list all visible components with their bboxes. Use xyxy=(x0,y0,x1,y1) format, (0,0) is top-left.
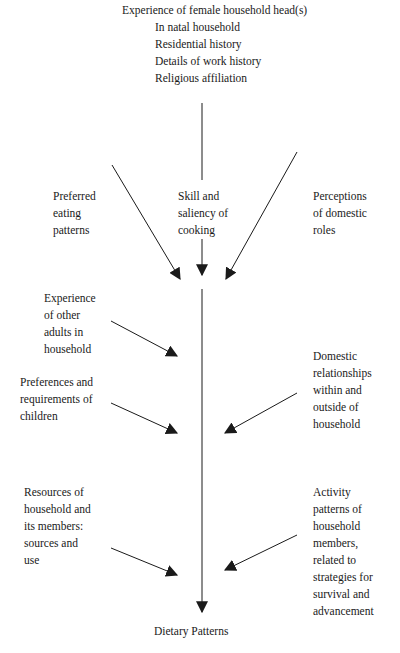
label-line: members, xyxy=(313,535,374,552)
label-line: Preferred xyxy=(53,188,96,205)
label-line: patterns of xyxy=(313,501,374,518)
label-line: of other xyxy=(44,307,96,324)
label-perceptions-roles: Perceptions of domestic roles xyxy=(313,188,367,239)
label-line: sources and xyxy=(24,535,91,552)
label-line: outside of xyxy=(313,399,372,416)
top-block: Experience of female household head(s) I… xyxy=(122,2,322,87)
top-title: Experience of female household head(s) xyxy=(122,2,322,19)
arrow-perceptions-roles xyxy=(226,152,297,279)
arrow-other-adults xyxy=(111,321,177,356)
arrow-domestic-relationships xyxy=(225,393,297,433)
label-line: Activity xyxy=(313,484,374,501)
arrow-children xyxy=(111,403,177,433)
label-line: within and xyxy=(313,382,372,399)
label-skill-cooking: Skill and saliency of cooking xyxy=(178,188,228,239)
label-line: household xyxy=(313,416,372,433)
label-line: use xyxy=(24,552,91,569)
label-line: its members: xyxy=(24,518,91,535)
label-line: saliency of xyxy=(178,205,228,222)
label-activity-patterns: Activity patterns of household members, … xyxy=(313,484,374,620)
label-line: cooking xyxy=(178,222,228,239)
label-preferred-eating: Preferred eating patterns xyxy=(53,188,96,239)
label-line: Experience xyxy=(44,290,96,307)
arrow-activity-patterns xyxy=(225,535,297,570)
label-domestic-relationships: Domestic relationships within and outsid… xyxy=(313,348,372,433)
label-line: advancement xyxy=(313,603,374,620)
label-resources: Resources of household and its members: … xyxy=(24,484,91,569)
label-line: requirements of xyxy=(20,391,93,408)
arrow-preferred-eating xyxy=(112,165,180,279)
top-item: Residential history xyxy=(155,36,322,53)
arrow-resources xyxy=(111,548,177,575)
top-item: Details of work history xyxy=(155,53,322,70)
label-line: related to xyxy=(313,552,374,569)
label-line: eating xyxy=(53,205,96,222)
label-line: roles xyxy=(313,222,367,239)
label-line: Perceptions xyxy=(313,188,367,205)
label-line: Skill and xyxy=(178,188,228,205)
label-line: household xyxy=(313,518,374,535)
label-line: survival and xyxy=(313,586,374,603)
label-line: children xyxy=(20,408,93,425)
top-item: In natal household xyxy=(155,19,322,36)
label-children: Preferences and requirements of children xyxy=(20,374,93,425)
label-line: Resources of xyxy=(24,484,91,501)
output-dietary-patterns: Dietary Patterns xyxy=(154,623,228,640)
top-item: Religious affiliation xyxy=(155,70,322,87)
label-line: Domestic xyxy=(313,348,372,365)
label-line: patterns xyxy=(53,222,96,239)
label-line: household xyxy=(44,341,96,358)
label-line: relationships xyxy=(313,365,372,382)
label-line: adults in xyxy=(44,324,96,341)
label-line: strategies for xyxy=(313,569,374,586)
label-line: of domestic xyxy=(313,205,367,222)
label-other-adults: Experience of other adults in household xyxy=(44,290,96,358)
label-line: Preferences and xyxy=(20,374,93,391)
label-line: household and xyxy=(24,501,91,518)
